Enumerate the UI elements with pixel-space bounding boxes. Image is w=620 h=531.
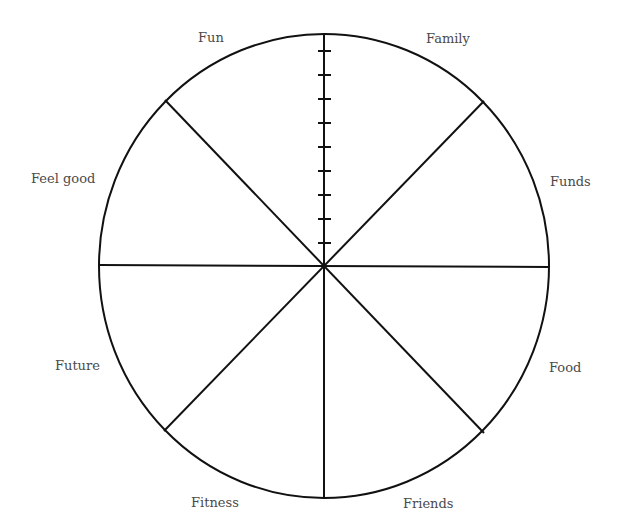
wheel-diagram [0,0,620,531]
label-feel-good: Feel good [31,171,95,187]
label-family: Family [426,31,470,47]
label-fitness: Fitness [191,495,239,511]
label-funds: Funds [550,174,591,190]
label-future: Future [55,358,100,374]
label-food: Food [549,360,581,376]
label-friends: Friends [403,496,453,512]
label-fun: Fun [198,30,224,46]
wheel-center [322,264,327,269]
